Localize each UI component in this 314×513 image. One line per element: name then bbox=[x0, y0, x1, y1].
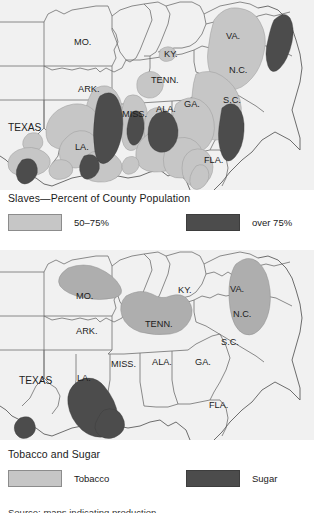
legend-label-tobacco: Tobacco bbox=[74, 473, 109, 484]
legend-label-over-75: over 75% bbox=[252, 217, 292, 228]
state-label-la-2: LA. bbox=[77, 373, 91, 383]
legend-slaves: Slaves—Percent of County Population 50–7… bbox=[0, 192, 314, 233]
legend-label-50-75: 50–75% bbox=[74, 217, 109, 228]
state-label-va: VA. bbox=[226, 31, 240, 41]
state-label-nc: N.C. bbox=[229, 65, 247, 75]
legend-entry-sugar: Sugar bbox=[186, 467, 277, 489]
legend-entry-50-75: 50–75% bbox=[8, 211, 109, 233]
state-label-ga-2: GA. bbox=[195, 357, 211, 367]
state-label-mo-2: MO. bbox=[76, 291, 93, 301]
legend-crops: Tobacco and Sugar Tobacco Sugar bbox=[0, 448, 314, 489]
state-label-tenn-2: TENN. bbox=[145, 319, 173, 329]
state-label-sc: S.C. bbox=[223, 95, 241, 105]
state-label-ark: ARK. bbox=[78, 84, 99, 94]
legend-slaves-entries: 50–75% over 75% bbox=[8, 211, 314, 233]
state-label-ala: ALA. bbox=[156, 104, 176, 114]
swatch-dark-icon bbox=[186, 214, 240, 231]
state-label-miss-2: MISS. bbox=[111, 359, 136, 369]
state-label-miss: MISS. bbox=[122, 109, 147, 119]
state-label-ark-2: ARK. bbox=[76, 326, 97, 336]
map-slaves-percent: MO. KY. VA. ARK. TENN. N.C. MISS. ALA. G… bbox=[0, 0, 314, 190]
map-slaves-graphic: MO. KY. VA. ARK. TENN. N.C. MISS. ALA. G… bbox=[0, 0, 314, 190]
state-label-la: LA. bbox=[75, 142, 89, 152]
swatch-tobacco-icon bbox=[8, 470, 62, 487]
state-label-ky-2: KY. bbox=[178, 285, 192, 295]
state-label-ala-2: ALA. bbox=[152, 357, 172, 367]
state-label-va-2: VA. bbox=[230, 284, 244, 294]
legend-label-sugar: Sugar bbox=[252, 473, 277, 484]
legend-entry-tobacco: Tobacco bbox=[8, 467, 109, 489]
legend-entry-over-75: over 75% bbox=[186, 211, 292, 233]
state-label-texas-2: TEXAS bbox=[19, 375, 53, 386]
map-tobacco-and-sugar: MO. KY. VA. ARK. TENN. N.C. S.C. MISS. A… bbox=[0, 250, 314, 440]
state-label-ga: GA. bbox=[184, 99, 200, 109]
state-label-fla-2: FLA. bbox=[209, 400, 228, 410]
legend-slaves-title: Slaves—Percent of County Population bbox=[8, 192, 314, 205]
state-label-fla: FLA. bbox=[204, 155, 223, 165]
state-label-sc-2: S.C. bbox=[221, 337, 239, 347]
state-label-texas: TEXAS bbox=[8, 122, 42, 133]
map-crops-graphic: MO. KY. VA. ARK. TENN. N.C. S.C. MISS. A… bbox=[0, 250, 314, 440]
state-label-ky: KY. bbox=[164, 49, 178, 59]
state-label-tenn: TENN. bbox=[151, 75, 179, 85]
swatch-sugar-icon bbox=[186, 470, 240, 487]
state-label-mo: MO. bbox=[74, 37, 91, 47]
legend-crops-title: Tobacco and Sugar bbox=[8, 448, 314, 461]
state-label-nc-2: N.C. bbox=[233, 309, 251, 319]
swatch-light-icon bbox=[8, 214, 62, 231]
legend-crops-entries: Tobacco Sugar bbox=[8, 467, 314, 489]
two-map-figure: MO. KY. VA. ARK. TENN. N.C. MISS. ALA. G… bbox=[0, 0, 314, 513]
source-caption: Source: maps indicating production bbox=[8, 507, 308, 513]
